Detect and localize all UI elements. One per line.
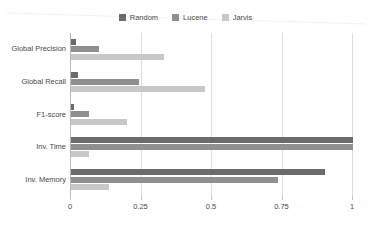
- x-tick-mark: [211, 196, 212, 200]
- y-axis-label: Inv. Memory: [0, 176, 66, 184]
- legend-label-jarvis: Jarvis: [233, 14, 253, 22]
- x-tick-label: 0.75: [274, 203, 289, 211]
- legend-label-lucene: Lucene: [183, 14, 208, 22]
- bar-jarvis-f1-score[interactable]: [71, 119, 127, 125]
- legend-item-lucene[interactable]: Lucene: [172, 14, 208, 22]
- bar-group: [71, 33, 352, 66]
- bar-random-global-precision[interactable]: [71, 39, 76, 45]
- y-axis-label: F1-score: [0, 111, 66, 119]
- bar-lucene-inv-time[interactable]: [71, 144, 353, 150]
- bar-random-inv-time[interactable]: [71, 137, 353, 143]
- x-tick-mark: [282, 196, 283, 200]
- y-axis-label: Global Precision: [0, 45, 66, 53]
- bar-lucene-global-recall[interactable]: [71, 79, 139, 85]
- x-tick-label: 0: [68, 203, 72, 211]
- gridline-x-1: [352, 33, 353, 196]
- x-tick-label: 1: [350, 203, 354, 211]
- x-tick-mark: [141, 196, 142, 200]
- x-tick-label: 0.5: [206, 203, 216, 211]
- y-axis-label: Global Recall: [0, 78, 66, 86]
- legend-swatch-random: [119, 14, 126, 21]
- legend-item-random[interactable]: Random: [119, 14, 158, 22]
- bar-lucene-f1-score[interactable]: [71, 111, 89, 117]
- bar-lucene-global-precision[interactable]: [71, 46, 99, 52]
- bar-jarvis-global-recall[interactable]: [71, 86, 205, 92]
- bar-lucene-inv-memory[interactable]: [71, 177, 278, 183]
- x-tick-mark: [352, 196, 353, 200]
- bar-jarvis-inv-time[interactable]: [71, 151, 89, 157]
- x-axis: 00.250.50.751: [70, 196, 352, 220]
- bar-group: [71, 66, 352, 99]
- legend-swatch-lucene: [172, 14, 179, 21]
- bar-chart: Random Lucene Jarvis Global PrecisionGlo…: [0, 0, 371, 231]
- bar-group: [71, 131, 352, 164]
- bar-jarvis-global-precision[interactable]: [71, 54, 164, 60]
- x-tick-label: 0.25: [133, 203, 148, 211]
- bar-group: [71, 163, 352, 196]
- y-axis-label: Inv. Time: [0, 143, 66, 151]
- bar-group: [71, 98, 352, 131]
- legend-item-jarvis[interactable]: Jarvis: [222, 14, 253, 22]
- y-axis-category-labels: Global PrecisionGlobal RecallF1-scoreInv…: [0, 33, 66, 196]
- bar-random-global-recall[interactable]: [71, 72, 78, 78]
- chart-legend: Random Lucene Jarvis: [0, 14, 371, 22]
- legend-swatch-jarvis: [222, 14, 229, 21]
- bar-jarvis-inv-memory[interactable]: [71, 184, 109, 190]
- legend-label-random: Random: [130, 14, 158, 22]
- bar-random-inv-memory[interactable]: [71, 169, 325, 175]
- plot-area: [70, 33, 352, 196]
- x-tick-mark: [70, 196, 71, 200]
- bar-random-f1-score[interactable]: [71, 104, 74, 110]
